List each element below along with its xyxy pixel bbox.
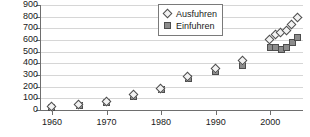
- legend-label: Einfuhren: [176, 21, 215, 31]
- y-tick-label: 900: [4, 0, 38, 9]
- diamond-icon: [163, 9, 172, 18]
- y-tick-label: 300: [4, 70, 38, 79]
- x-tick-label: 2000: [250, 117, 290, 127]
- x-tick-mark: [107, 110, 108, 115]
- y-tick-label: 100: [4, 93, 38, 102]
- square-icon: [163, 21, 172, 30]
- x-tick-mark: [161, 110, 162, 115]
- x-tick-label: 1980: [141, 117, 181, 127]
- y-tick-label: 400: [4, 58, 38, 67]
- y-tick-label: 600: [4, 35, 38, 44]
- chart-legend: Ausfuhren Einfuhren: [158, 4, 223, 36]
- y-tick-label: 800: [4, 12, 38, 21]
- x-tick-mark: [216, 110, 217, 115]
- y-tick-label: 500: [4, 47, 38, 56]
- y-tick-label: 700: [4, 23, 38, 32]
- y-tick-label: 200: [4, 82, 38, 91]
- x-tick-label: 1990: [196, 117, 236, 127]
- x-tick-label: 1960: [32, 117, 72, 127]
- chart-container: 0100200300400500600700800900 19601970198…: [0, 0, 310, 137]
- legend-label: Ausfuhren: [176, 9, 217, 19]
- x-tick-label: 1970: [87, 117, 127, 127]
- x-axis-line: [40, 110, 303, 111]
- y-tick-label: 0: [4, 105, 38, 114]
- data-point-square: [294, 34, 301, 41]
- legend-item: Einfuhren: [163, 20, 217, 31]
- x-tick-mark: [270, 110, 271, 115]
- legend-item: Ausfuhren: [163, 8, 217, 19]
